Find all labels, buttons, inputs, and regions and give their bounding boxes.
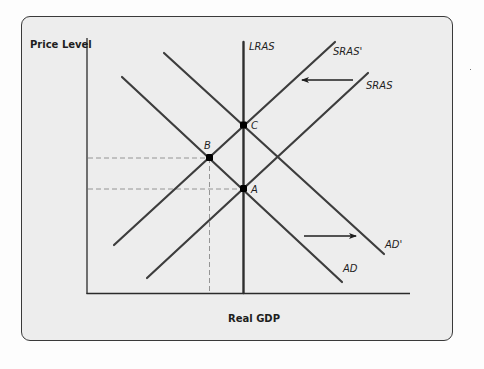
point-c-label: C	[251, 120, 258, 131]
stray-mark	[470, 69, 471, 70]
as-ad-chart: C B A LRAS SRAS' SRAS AD' AD Price Level…	[0, 0, 484, 369]
point-a-label: A	[250, 184, 258, 195]
figure-stage: C B A LRAS SRAS' SRAS AD' AD Price Level…	[0, 0, 484, 369]
point-b-marker	[206, 154, 213, 161]
sras-prime-label: SRAS'	[333, 46, 362, 57]
point-c-marker	[240, 122, 247, 129]
y-axis-label: Price Level	[30, 39, 92, 50]
guide-lines	[88, 158, 243, 293]
ad-label: AD	[342, 263, 358, 274]
axes	[87, 38, 411, 294]
shift-arrows	[302, 80, 356, 236]
ad-curve	[122, 77, 342, 282]
point-b-label: B	[204, 140, 211, 151]
point-a-marker	[240, 185, 247, 192]
lras-label: LRAS	[249, 41, 275, 52]
x-axis-label: Real GDP	[228, 313, 280, 324]
equilibrium-points	[206, 122, 247, 193]
sras-curve	[147, 73, 368, 278]
ad-prime-curve	[164, 53, 384, 254]
ad-prime-label: AD'	[384, 239, 402, 250]
sras-prime-curve	[114, 42, 335, 245]
sras-label: SRAS	[366, 80, 393, 91]
